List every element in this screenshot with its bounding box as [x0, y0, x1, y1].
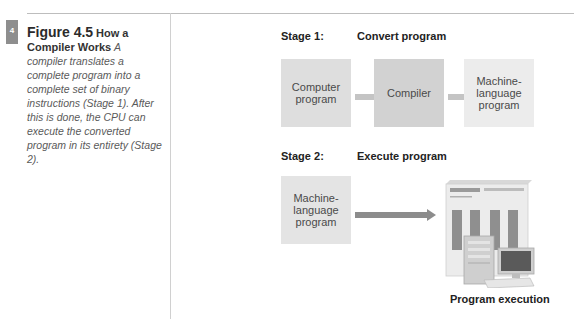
box-compiler: Compiler: [374, 59, 444, 127]
stage2-title: Execute program: [357, 150, 447, 162]
program-execution-label: Program execution: [450, 293, 550, 305]
computer-system-icon: [440, 178, 540, 288]
stage1-label: Stage 1:: [281, 30, 324, 42]
box-stage2-machine-language: Machine- language program: [281, 176, 351, 244]
stage1-title: Convert program: [357, 30, 446, 42]
box-computer-program: Computer program: [281, 59, 351, 127]
arrow-to-execution: [355, 212, 435, 218]
box-label: Compiler: [387, 87, 431, 99]
stage2-label: Stage 2:: [281, 150, 324, 162]
box-label: Computer program: [292, 81, 340, 105]
box-label: Machine- language program: [293, 192, 338, 228]
figure-description: A compiler translates a complete program…: [27, 41, 162, 165]
box-machine-language-program: Machine- language program: [464, 59, 534, 127]
top-rule: [27, 13, 574, 14]
figure-number: Figure 4.5: [27, 24, 93, 40]
column-divider: [170, 13, 171, 319]
figure-caption: Figure 4.5 How a Compiler Works A compil…: [27, 25, 162, 166]
box-label: Machine- language program: [476, 75, 521, 111]
chapter-tab: 4: [6, 20, 18, 44]
